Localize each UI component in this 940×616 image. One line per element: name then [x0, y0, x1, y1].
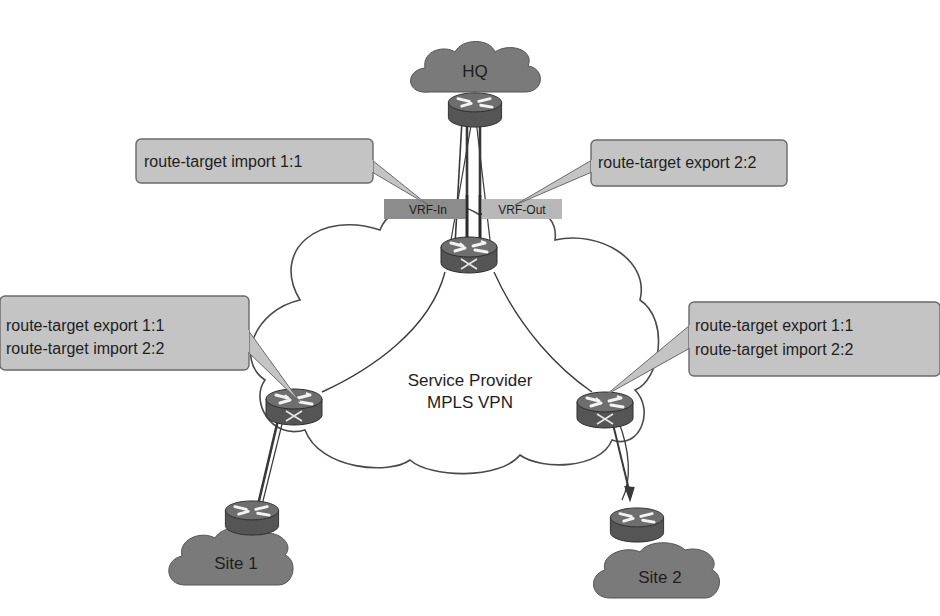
svg-text:route-target export 1:1: route-target export 1:1: [695, 317, 853, 334]
site1-ce-router-icon[interactable]: [225, 501, 278, 535]
site1-label: Site 1: [214, 554, 257, 573]
svg-text:route-target export 1:1: route-target export 1:1: [6, 317, 164, 334]
hub-pe-router-icon[interactable]: [441, 237, 497, 273]
svg-text:route-target import 2:2: route-target import 2:2: [6, 340, 164, 357]
callout-hq-export: route-target export 2:2: [515, 140, 787, 205]
svg-text:VRF-In: VRF-In: [409, 203, 447, 217]
provider-label-line1: Service Provider: [408, 371, 533, 390]
hq-ce-router-icon[interactable]: [448, 93, 501, 127]
svg-text:route-target import 1:1: route-target import 1:1: [144, 153, 302, 170]
mpls-vpn-diagram: Service Provider MPLS VPN HQ VRF-In VRF-…: [0, 0, 940, 616]
hq-label: HQ: [462, 62, 488, 81]
svg-text:route-target export 2:2: route-target export 2:2: [598, 154, 756, 171]
site2-pe-router-icon[interactable]: [577, 392, 633, 428]
site2-label: Site 2: [638, 568, 681, 587]
provider-label-line2: MPLS VPN: [427, 393, 513, 412]
site2-ce-router-icon[interactable]: [610, 508, 663, 542]
callout-site1-pe: route-target export 1:1 route-target imp…: [0, 296, 300, 402]
svg-text:VRF-Out: VRF-Out: [498, 203, 546, 217]
svg-text:route-target import 2:2: route-target import 2:2: [695, 341, 853, 358]
callout-hq-import: route-target import 1:1: [136, 139, 428, 205]
